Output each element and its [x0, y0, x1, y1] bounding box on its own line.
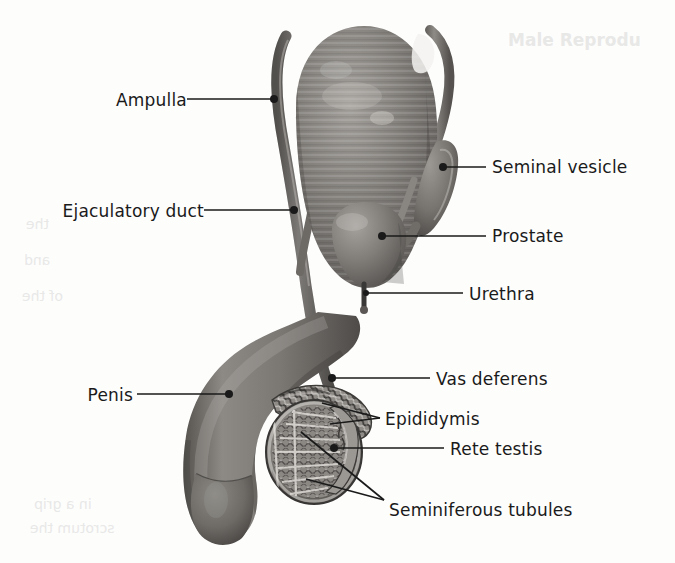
label-ampulla: Ampulla: [0, 92, 187, 109]
dot-rete-testis: [330, 444, 338, 452]
label-penis: Penis: [0, 387, 133, 404]
label-rete-testis: Rete testis: [450, 441, 542, 458]
dot-urethra: [363, 290, 369, 296]
dot-seminal-vesicle: [439, 163, 447, 171]
label-epididymis: Epididymis: [385, 411, 480, 428]
anatomy-illustration: [0, 0, 675, 563]
label-seminiferous-tubules: Seminiferous tubules: [389, 502, 573, 519]
label-urethra: Urethra: [469, 286, 535, 303]
dot-ampulla: [270, 95, 278, 103]
bladder-notch: [412, 34, 435, 73]
urethra-opening: [360, 306, 368, 314]
label-ejaculatory-duct: Ejaculatory duct: [0, 203, 204, 220]
dot-prostate: [378, 232, 386, 240]
label-seminal-vesicle: Seminal vesicle: [492, 159, 627, 176]
figure-page: Male Reprodu the and of the in a grip sc…: [0, 0, 675, 563]
label-prostate: Prostate: [492, 228, 564, 245]
dot-penis: [225, 390, 233, 398]
glans: [191, 474, 254, 545]
dot-vas-deferens: [328, 374, 336, 382]
label-vas-deferens: Vas deferens: [436, 371, 548, 388]
dot-ejaculatory-duct: [290, 206, 298, 214]
